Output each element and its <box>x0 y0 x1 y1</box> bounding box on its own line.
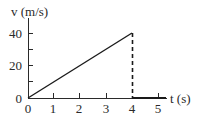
y-tick-0: 0 <box>0 92 22 105</box>
x-tick-1: 1 <box>50 102 57 115</box>
x-tick-3: 3 <box>103 102 110 115</box>
y-tick-20: 20 <box>0 59 22 72</box>
x-tick-5: 5 <box>155 102 162 115</box>
x-tick-0: 0 <box>25 102 32 115</box>
x-axis-label: t (s) <box>170 92 191 105</box>
y-axis-label: v (m/s) <box>11 5 48 18</box>
velocity-ramp-line <box>28 33 132 98</box>
x-tick-2: 2 <box>76 102 83 115</box>
y-tick-40: 40 <box>0 27 22 40</box>
x-tick-4: 4 <box>129 102 136 115</box>
